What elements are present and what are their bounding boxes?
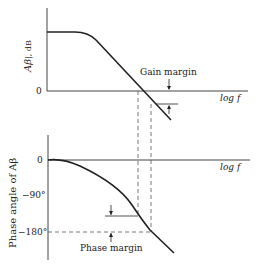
phase-margin-label: Phase margin	[80, 243, 143, 253]
bode-diagram: 0 Aβ|, dB log f Gain margin 0	[0, 0, 257, 271]
phase-margin-arrows	[109, 205, 113, 242]
gain-x-label: log f	[220, 93, 242, 103]
phase-x-label: log f	[220, 162, 242, 172]
phase-tick-0: 0	[37, 155, 43, 165]
gain-margin-arrows	[156, 79, 178, 114]
gain-zero-tick: 0	[36, 86, 42, 96]
crossover-dashed-lines	[138, 91, 151, 232]
phase-y-label: Phase angle of Aβ	[7, 157, 18, 248]
phase-plot: 0 −90° −180° Phase angle of Aβ log f Pha…	[7, 135, 250, 260]
phase-tick-minus180: −180°	[18, 227, 47, 237]
phase-tick-minus90: −90°	[22, 190, 46, 200]
gain-y-label: Aβ|, dB	[22, 40, 33, 73]
gain-plot: 0 Aβ|, dB log f Gain margin	[22, 8, 248, 120]
gain-margin-label: Gain margin	[140, 67, 197, 77]
